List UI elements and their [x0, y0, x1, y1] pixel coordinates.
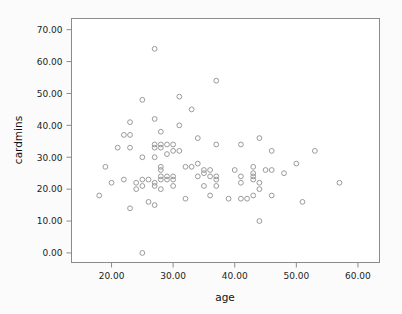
x-tick-label: 50.00 — [283, 271, 309, 281]
x-tick-label: 40.00 — [222, 271, 248, 281]
x-axis-tick-marks — [112, 263, 358, 268]
y-tick-label: 50.00 — [37, 89, 63, 99]
y-tick-label: 20.00 — [37, 184, 63, 194]
plot-frame — [72, 19, 380, 263]
x-axis-title: age — [215, 291, 235, 303]
y-tick-label: 70.00 — [37, 25, 63, 35]
y-tick-label: 40.00 — [37, 121, 63, 131]
x-tick-label: 20.00 — [99, 271, 125, 281]
y-tick-label: 60.00 — [37, 57, 63, 67]
plot-canvas: 20.0030.0040.0050.0060.00 0.0010.0020.00… — [0, 0, 402, 314]
y-tick-label: 10.00 — [37, 216, 63, 226]
scatter-plot-chart: 20.0030.0040.0050.0060.00 0.0010.0020.00… — [0, 0, 402, 314]
x-axis-tick-labels: 20.0030.0040.0050.0060.00 — [99, 271, 371, 281]
y-tick-label: 30.00 — [37, 153, 63, 163]
y-axis-tick-marks — [67, 30, 72, 253]
x-tick-label: 60.00 — [345, 271, 371, 281]
y-tick-label: 0.00 — [42, 248, 62, 258]
y-axis-title: cardmins — [12, 116, 24, 164]
y-axis-tick-labels: 0.0010.0020.0030.0040.0050.0060.0070.00 — [37, 25, 63, 258]
x-tick-label: 30.00 — [160, 271, 186, 281]
